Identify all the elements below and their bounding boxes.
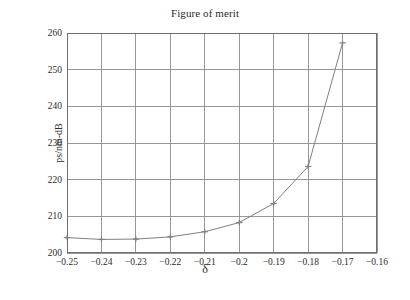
y-tick-label: 210 [48,211,62,221]
y-tick-label: 260 [48,28,62,38]
y-tick-label: 200 [48,248,62,258]
data-point-marker [236,220,242,225]
data-point-marker [98,237,104,242]
data-point-marker [64,235,70,240]
data-point-marker [202,229,208,234]
chart-plot-svg [67,33,377,253]
data-point-marker [167,234,173,239]
y-tick-label: 250 [48,65,62,75]
plot-area: ps/nm-dB −0.25−0.24−0.23−0.22−0.21−0.2−0… [67,33,377,253]
data-point-marker [133,236,139,241]
y-tick-label: 230 [48,138,62,148]
chart-title: Figure of merit [0,7,410,19]
y-tick-label: 240 [48,101,62,111]
x-axis-label: δ [0,262,410,277]
data-point-marker [339,40,345,45]
y-tick-label: 220 [48,175,62,185]
figure-container: Figure of merit ps/nm-dB −0.25−0.24−0.23… [0,0,410,300]
